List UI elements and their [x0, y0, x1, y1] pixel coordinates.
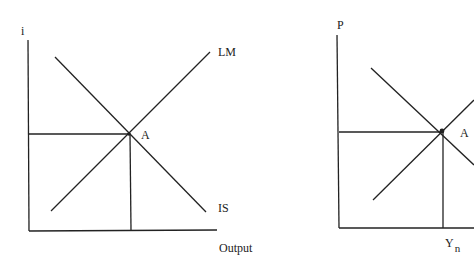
natural-output-label: Yn	[445, 237, 459, 249]
natural-output-subscript: n	[455, 242, 461, 254]
left-x-axis	[29, 230, 217, 231]
right-y-axis	[337, 35, 339, 228]
right-equilibrium-point	[440, 129, 445, 134]
diagram-canvas	[0, 0, 474, 267]
lm-label: LM	[218, 46, 236, 58]
natural-output-symbol: Y	[445, 236, 454, 250]
right-y-axis-label: P	[337, 19, 344, 31]
right-equilibrium-label: A	[460, 127, 469, 139]
left-equilibrium-label: A	[141, 129, 150, 141]
left-y-axis-label: i	[21, 25, 24, 37]
is-label: IS	[218, 202, 229, 214]
left-x-axis-label: Output	[219, 242, 252, 254]
left-equilibrium-point	[127, 132, 131, 136]
left-y-axis	[28, 40, 29, 231]
left-equilibrium-vertical-guide	[130, 134, 131, 230]
